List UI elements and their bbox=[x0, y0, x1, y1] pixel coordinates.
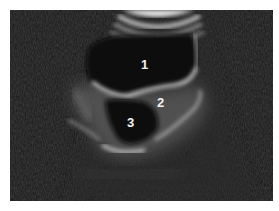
structure-label-3: 3 bbox=[127, 116, 134, 129]
structure-label-1: 1 bbox=[141, 58, 148, 71]
ultrasound-image: 1 2 3 bbox=[10, 10, 273, 201]
ultrasound-echo-pattern bbox=[10, 10, 273, 201]
structure-label-2: 2 bbox=[157, 96, 164, 109]
